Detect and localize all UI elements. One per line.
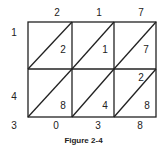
result-digit: 0	[53, 121, 59, 131]
cell-ones: 2	[60, 45, 66, 55]
figure-caption: Figure 2-4	[0, 136, 167, 145]
result-digit: 8	[137, 121, 143, 131]
result-digit-left: 3	[11, 121, 17, 131]
result-digit: 3	[95, 121, 101, 131]
multiplicand-digit-1: 2	[54, 8, 60, 18]
cell-ones: 8	[60, 101, 66, 111]
cell-ones: 7	[143, 45, 149, 55]
cell-ones: 1	[102, 45, 108, 55]
multiplicand-digit-3: 7	[138, 8, 144, 18]
multiplier-digit-1: 1	[11, 28, 17, 38]
cell-tens: 2	[138, 73, 144, 83]
multiplicand-digit-2: 1	[96, 8, 102, 18]
cell-ones: 4	[102, 101, 108, 111]
multiplier-digit-2: 4	[11, 92, 17, 102]
cell-ones: 8	[144, 101, 150, 111]
